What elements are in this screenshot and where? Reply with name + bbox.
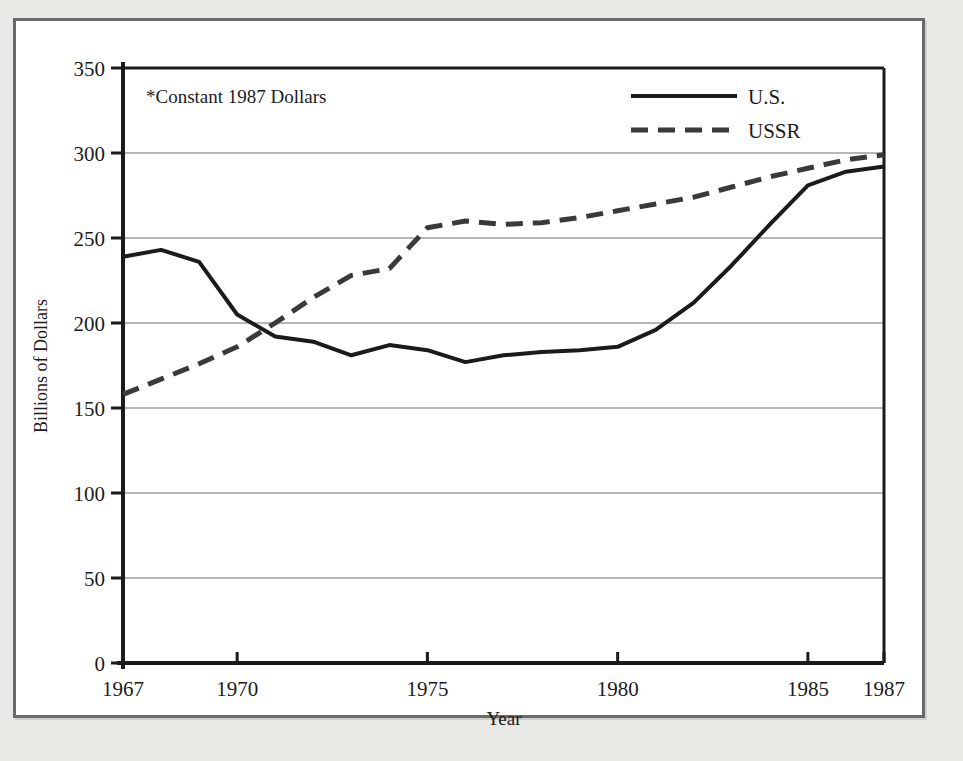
y-tick-label: 250	[74, 227, 106, 251]
y-tick-label: 300	[74, 142, 106, 166]
x-axis-tick-labels: 196719701975198019851987	[102, 677, 905, 701]
x-axis-title: Year	[486, 708, 522, 729]
x-tick-label: 1967	[102, 677, 144, 701]
y-tick-label: 0	[95, 652, 106, 676]
legend: U.S. USSR	[631, 85, 801, 143]
chart-annotation: *Constant 1987 Dollars	[146, 86, 327, 107]
y-tick-label: 50	[84, 567, 105, 591]
y-tick-label: 100	[74, 482, 106, 506]
data-series-group	[123, 155, 884, 395]
y-tick-label: 350	[74, 57, 106, 81]
series-line-u-s	[123, 167, 884, 363]
y-tick-label: 200	[74, 312, 106, 336]
legend-label-us: U.S.	[748, 85, 785, 109]
legend-label-ussr: USSR	[748, 119, 801, 143]
y-axis-title: Billions of Dollars	[31, 299, 51, 433]
gridlines	[123, 153, 884, 578]
y-axis-tick-labels: 050100150200250300350	[74, 57, 106, 676]
series-line-ussr	[123, 155, 884, 395]
line-chart: 050100150200250300350 196719701975198019…	[0, 0, 963, 761]
x-tick-label: 1975	[406, 677, 448, 701]
x-tick-label: 1970	[216, 677, 258, 701]
x-tick-label: 1987	[863, 677, 905, 701]
x-tick-label: 1985	[787, 677, 829, 701]
figure-page: 050100150200250300350 196719701975198019…	[0, 0, 963, 761]
y-tick-label: 150	[74, 397, 106, 421]
x-tick-label: 1980	[597, 677, 639, 701]
